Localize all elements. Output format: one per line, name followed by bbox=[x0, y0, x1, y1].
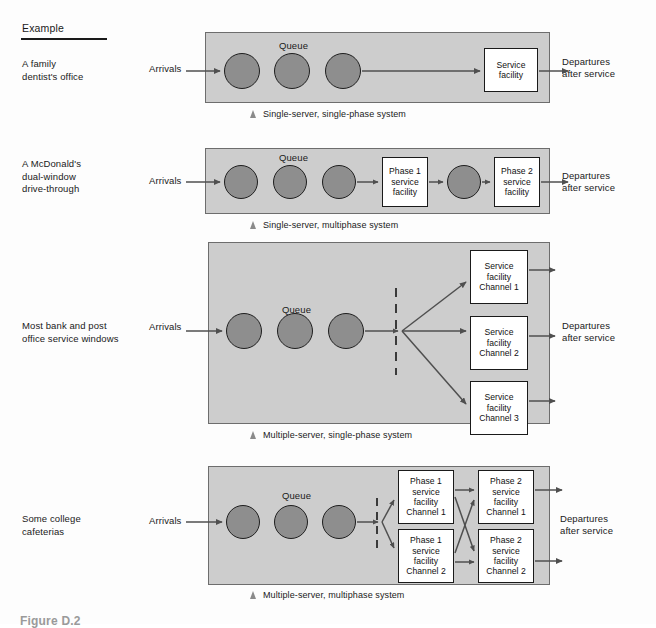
system-4-phase-2-service-facility-channel-2: Phase 2 service facility Channel 2 bbox=[478, 529, 534, 583]
system-4-departures-label: Departures after service bbox=[560, 513, 613, 537]
system-4-caption: Multiple-server, multiphase system bbox=[250, 590, 404, 600]
system-2-queue-circle-3 bbox=[322, 165, 356, 199]
system-1-service-facility: Service facility bbox=[484, 48, 538, 92]
system-2-caption-text: Single-server, multiphase system bbox=[263, 220, 398, 230]
system-4-queue-circle-3 bbox=[322, 505, 356, 539]
example-label-2: A McDonald's dual-window drive-through bbox=[22, 158, 81, 196]
system-4-phase-2-service-facility-channel-1: Phase 2 service facility Channel 1 bbox=[478, 470, 534, 524]
system-4-arrivals-label: Arrivals bbox=[149, 515, 181, 527]
system-1-queue-circle-3 bbox=[325, 53, 361, 89]
system-2-queue-circle-1 bbox=[224, 165, 258, 199]
system-1-queue-circle-2 bbox=[274, 53, 310, 89]
system-1-departures-label: Departures after service bbox=[562, 56, 615, 80]
caption-marker-icon bbox=[250, 110, 256, 118]
system-3-service-facility-channel-2: Service facility Channel 2 bbox=[470, 316, 528, 370]
system-3-queue-circle-1 bbox=[226, 313, 262, 349]
system-2-inline-circle bbox=[447, 165, 481, 199]
system-4-phase-1-service-facility-channel-2: Phase 1 service facility Channel 2 bbox=[398, 529, 454, 583]
system-2-phase-1-service-facility: Phase 1 service facility bbox=[382, 157, 428, 207]
system-3-service-facility-channel-3: Service facility Channel 3 bbox=[470, 381, 528, 435]
system-3-caption: Multiple-server, single-phase system bbox=[250, 430, 412, 440]
system-1-queue-circle-1 bbox=[224, 53, 260, 89]
system-4-queue-circle-1 bbox=[226, 505, 260, 539]
system-3-caption-text: Multiple-server, single-phase system bbox=[263, 430, 412, 440]
figure-caption: Figure D.2 bbox=[20, 614, 81, 628]
example-column-divider bbox=[21, 38, 107, 40]
system-4-phase-1-service-facility-channel-1: Phase 1 service facility Channel 1 bbox=[398, 470, 454, 524]
system-3-queue-circle-2 bbox=[277, 313, 313, 349]
example-label-1: A family dentist's office bbox=[22, 58, 83, 83]
system-1-arrivals-label: Arrivals bbox=[149, 63, 181, 75]
system-3-service-facility-channel-1: Service facility Channel 1 bbox=[470, 250, 528, 304]
caption-marker-icon bbox=[250, 221, 256, 229]
example-label-4: Some college cafeterias bbox=[22, 513, 81, 538]
system-1-queue-label: Queue bbox=[279, 40, 308, 52]
caption-marker-icon bbox=[250, 591, 256, 599]
system-2-caption: Single-server, multiphase system bbox=[250, 220, 398, 230]
system-3-departures-label: Departures after service bbox=[562, 320, 615, 344]
system-2-departures-label: Departures after service bbox=[562, 170, 615, 194]
example-label-3: Most bank and post office service window… bbox=[22, 320, 119, 345]
system-4-caption-text: Multiple-server, multiphase system bbox=[263, 590, 404, 600]
system-3-queue-circle-3 bbox=[328, 313, 364, 349]
system-4-queue-circle-2 bbox=[274, 505, 308, 539]
caption-marker-icon bbox=[250, 431, 256, 439]
system-1-caption: Single-server, single-phase system bbox=[250, 109, 406, 119]
system-2-queue-circle-2 bbox=[273, 165, 307, 199]
system-3-arrivals-label: Arrivals bbox=[149, 321, 181, 333]
system-2-arrivals-label: Arrivals bbox=[149, 175, 181, 187]
example-column-title: Example bbox=[22, 22, 64, 34]
system-2-phase-2-service-facility: Phase 2 service facility bbox=[494, 157, 540, 207]
system-4-queue-label: Queue bbox=[282, 490, 311, 502]
system-2-queue-label: Queue bbox=[279, 152, 308, 164]
system-1-caption-text: Single-server, single-phase system bbox=[263, 109, 406, 119]
